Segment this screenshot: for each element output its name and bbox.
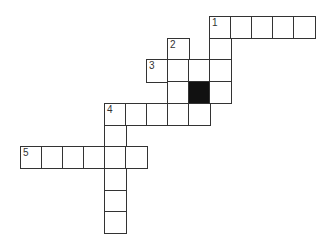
- crossword-cell[interactable]: [209, 59, 232, 82]
- crossword-grid: 12345: [0, 0, 335, 249]
- crossword-cell[interactable]: [167, 103, 190, 126]
- crossword-cell[interactable]: [104, 168, 127, 191]
- crossword-cell[interactable]: [272, 16, 295, 39]
- blocked-cell: [188, 81, 211, 104]
- crossword-cell[interactable]: [209, 38, 232, 61]
- crossword-cell[interactable]: [62, 146, 85, 169]
- crossword-cell[interactable]: [125, 103, 148, 126]
- crossword-cell[interactable]: [104, 146, 127, 169]
- crossword-cell[interactable]: [146, 103, 169, 126]
- crossword-cell[interactable]: [104, 211, 127, 234]
- crossword-cell[interactable]: [104, 190, 127, 213]
- clue-number: 3: [149, 60, 155, 71]
- clue-number: 5: [23, 147, 29, 158]
- crossword-cell[interactable]: [167, 81, 190, 104]
- clue-number: 1: [212, 17, 218, 28]
- clue-number: 4: [107, 104, 113, 115]
- crossword-cell[interactable]: 2: [167, 38, 190, 61]
- crossword-cell[interactable]: [83, 146, 106, 169]
- crossword-cell[interactable]: [293, 16, 316, 39]
- crossword-cell[interactable]: 3: [146, 59, 169, 82]
- crossword-cell[interactable]: [188, 59, 211, 82]
- clue-number: 2: [170, 39, 176, 50]
- crossword-cell[interactable]: [188, 103, 211, 126]
- crossword-cell[interactable]: [104, 125, 127, 148]
- crossword-cell[interactable]: [209, 81, 232, 104]
- crossword-cell[interactable]: [167, 59, 190, 82]
- crossword-cell[interactable]: [230, 16, 253, 39]
- crossword-cell[interactable]: [125, 146, 148, 169]
- crossword-cell[interactable]: 5: [20, 146, 43, 169]
- crossword-cell[interactable]: 4: [104, 103, 127, 126]
- crossword-cell[interactable]: [41, 146, 64, 169]
- crossword-cell[interactable]: 1: [209, 16, 232, 39]
- crossword-cell[interactable]: [251, 16, 274, 39]
